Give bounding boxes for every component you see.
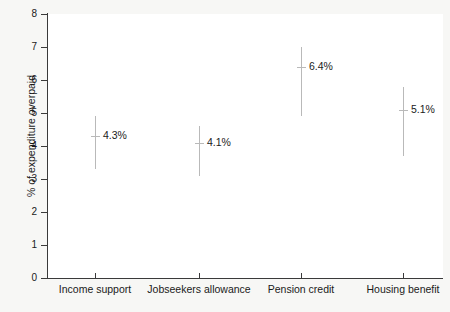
data-point-label: 4.1% (207, 137, 231, 148)
errorbar-point-marker (297, 67, 306, 68)
errorbar-whisker (301, 47, 302, 116)
y-tick-mark (41, 245, 47, 246)
y-tick-mark (41, 14, 47, 15)
y-tick-mark (41, 179, 47, 180)
y-tick-label: 8 (21, 9, 37, 19)
errorbar-whisker (403, 87, 404, 156)
y-tick-mark (41, 212, 47, 213)
errorbar-point-marker (195, 143, 204, 144)
data-point-label: 4.3% (103, 130, 127, 141)
y-tick-mark (41, 278, 47, 279)
errorbar-point-marker (399, 110, 408, 111)
data-point-label: 6.4% (309, 61, 333, 72)
x-axis-line (47, 278, 443, 279)
errorbar-whisker (199, 126, 200, 176)
x-tick-mark (199, 273, 200, 279)
errorbar-point-marker (91, 136, 100, 137)
x-tick-label: Housing benefit (367, 283, 440, 295)
data-point-label: 5.1% (411, 104, 435, 115)
y-tick-label: 1 (21, 240, 37, 250)
chart-container: 012345678 Income supportJobseekers allow… (0, 0, 450, 312)
y-tick-mark (41, 113, 47, 114)
x-tick-label: Jobseekers allowance (147, 283, 250, 295)
x-tick-label: Income support (59, 283, 131, 295)
y-axis-title: % of expenditure overpaid (25, 51, 37, 221)
x-tick-mark (403, 273, 404, 279)
x-tick-mark (301, 273, 302, 279)
errorbar-whisker (95, 116, 96, 169)
x-tick-mark (95, 273, 96, 279)
y-axis-line (47, 13, 48, 279)
y-tick-mark (41, 146, 47, 147)
y-tick-label: 0 (21, 273, 37, 283)
y-tick-mark (41, 47, 47, 48)
plot-area (47, 14, 443, 278)
x-tick-label: Pension credit (268, 283, 335, 295)
y-tick-mark (41, 80, 47, 81)
